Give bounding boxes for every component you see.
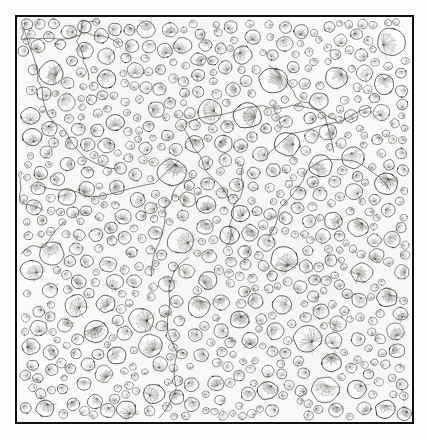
illustration-plate — [0, 0, 429, 441]
granule-field — [17, 17, 412, 422]
plate-frame — [15, 15, 414, 424]
